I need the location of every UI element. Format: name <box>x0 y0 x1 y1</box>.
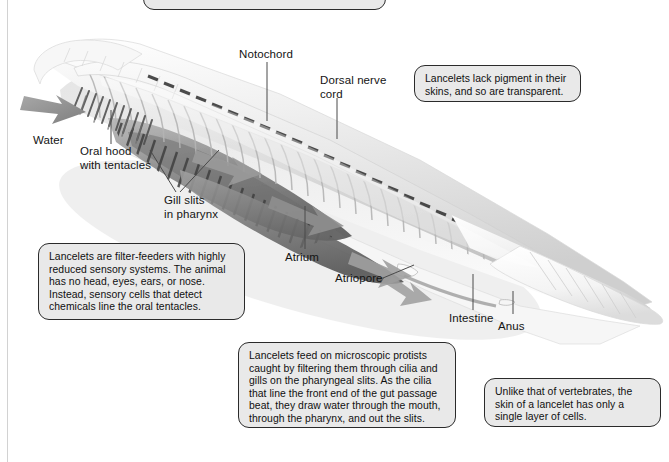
leader-atriopore <box>383 265 414 278</box>
callout-pigment: Lancelets lack pigment in their skins, a… <box>414 65 581 102</box>
label-anus: Anus <box>498 320 525 334</box>
label-notochord: Notochord <box>239 48 293 62</box>
label-dorsal-nerve-cord: Dorsal nerve cord <box>320 74 386 101</box>
label-water: Water <box>33 134 64 148</box>
label-gill-slits: Gill slits in pharynx <box>164 194 218 221</box>
label-oral-hood: Oral hood with tentacles <box>80 145 151 172</box>
callout-top-cropped <box>143 0 386 10</box>
figure-canvas: Notochord Dorsal nerve cord Water Oral h… <box>0 0 669 462</box>
label-atrium: Atrium <box>285 251 319 265</box>
callout-skin-layer: Unlike that of vertebrates, the skin of … <box>484 378 661 427</box>
label-intestine: Intestine <box>449 312 493 326</box>
label-atriopore: Atriopore <box>335 272 383 286</box>
leader-gill-slits-a <box>150 150 176 192</box>
callout-feeding: Lancelets feed on microscopic protists c… <box>238 342 456 428</box>
callout-filter-feeders: Lancelets are filter-feeders with highly… <box>38 243 245 320</box>
leader-gill-slits-b <box>180 150 219 192</box>
